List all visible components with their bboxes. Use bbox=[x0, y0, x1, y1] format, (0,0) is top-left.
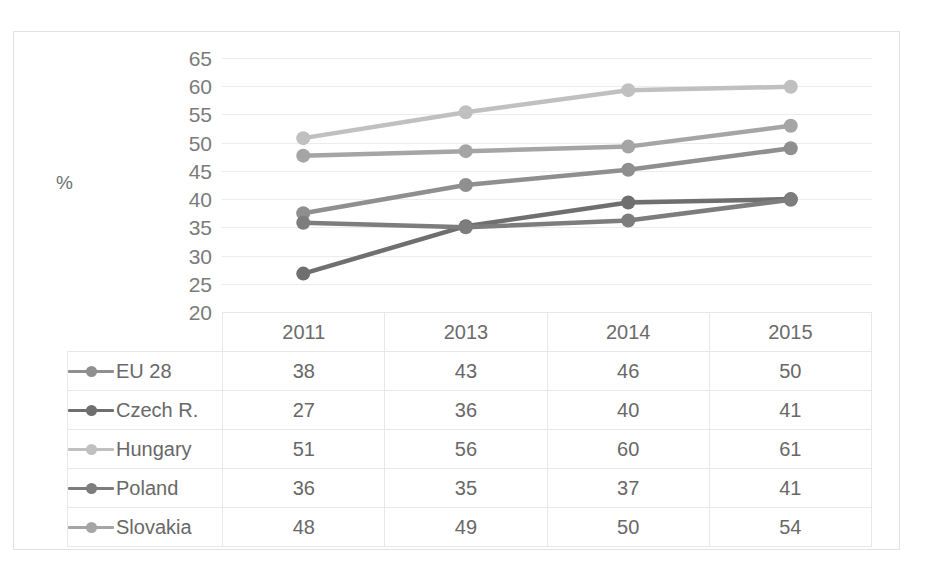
y-axis-tick-label: 50 bbox=[189, 133, 212, 154]
y-axis-title: % bbox=[56, 172, 73, 194]
gridline bbox=[222, 284, 872, 285]
table-cell-eu-28-2013: 43 bbox=[385, 352, 547, 391]
y-axis-tick-label: 35 bbox=[189, 217, 212, 238]
y-axis-tick-labels: 65605550454035302520 bbox=[150, 46, 212, 324]
legend-marker-icon bbox=[68, 364, 114, 378]
table-cell-eu-28-2014: 46 bbox=[547, 352, 709, 391]
table-body: EU 2838434650Czech R.27364041Hungary5156… bbox=[68, 352, 872, 547]
table-cell-poland-2014: 37 bbox=[547, 469, 709, 508]
y-axis-tick-label: 40 bbox=[189, 189, 212, 210]
y-axis-tick-label: 45 bbox=[189, 161, 212, 182]
chart-figure: % 65605550454035302520 2011201320142015 … bbox=[0, 0, 929, 578]
table-row: Slovakia48495054 bbox=[68, 508, 872, 547]
table-column-header-2015: 2015 bbox=[709, 313, 871, 352]
gridline bbox=[222, 114, 872, 115]
legend-label-slovakia: Slovakia bbox=[114, 516, 192, 539]
table-corner-cell bbox=[68, 313, 223, 352]
table-cell-slovakia-2013: 49 bbox=[385, 508, 547, 547]
table-row: Hungary51566061 bbox=[68, 430, 872, 469]
y-axis-tick-label: 30 bbox=[189, 246, 212, 267]
table-cell-poland-2015: 41 bbox=[709, 469, 871, 508]
data-table: 2011201320142015 EU 2838434650Czech R.27… bbox=[67, 312, 872, 547]
legend-label-czech-r: Czech R. bbox=[114, 399, 198, 422]
legend-cell-eu-28: EU 28 bbox=[68, 352, 223, 391]
gridline bbox=[222, 143, 872, 144]
table-cell-czech-r-2015: 41 bbox=[709, 391, 871, 430]
gridline bbox=[222, 58, 872, 59]
table-column-header-2013: 2013 bbox=[385, 313, 547, 352]
table-cell-poland-2013: 35 bbox=[385, 469, 547, 508]
table-cell-slovakia-2011: 48 bbox=[223, 508, 385, 547]
legend-marker-icon bbox=[68, 403, 114, 417]
table-row: EU 2838434650 bbox=[68, 352, 872, 391]
table-cell-hungary-2014: 60 bbox=[547, 430, 709, 469]
legend-marker-icon bbox=[68, 520, 114, 534]
plot-area bbox=[222, 58, 872, 312]
legend-label-eu-28: EU 28 bbox=[114, 360, 172, 383]
table-header-row: 2011201320142015 bbox=[68, 313, 872, 352]
y-axis-tick-label: 25 bbox=[189, 274, 212, 295]
table-cell-czech-r-2011: 27 bbox=[223, 391, 385, 430]
table-cell-hungary-2011: 51 bbox=[223, 430, 385, 469]
gridline bbox=[222, 86, 872, 87]
table-cell-slovakia-2014: 50 bbox=[547, 508, 709, 547]
gridline bbox=[222, 171, 872, 172]
table-cell-czech-r-2013: 36 bbox=[385, 391, 547, 430]
legend-cell-czech-r: Czech R. bbox=[68, 391, 223, 430]
legend-cell-slovakia: Slovakia bbox=[68, 508, 223, 547]
table-column-header-2014: 2014 bbox=[547, 313, 709, 352]
table-row: Poland36353741 bbox=[68, 469, 872, 508]
legend-cell-hungary: Hungary bbox=[68, 430, 223, 469]
y-axis-tick-label: 65 bbox=[189, 48, 212, 69]
table-cell-slovakia-2015: 54 bbox=[709, 508, 871, 547]
y-axis-tick-label: 60 bbox=[189, 76, 212, 97]
table-row: Czech R.27364041 bbox=[68, 391, 872, 430]
table-cell-czech-r-2014: 40 bbox=[547, 391, 709, 430]
gridline bbox=[222, 256, 872, 257]
legend-cell-poland: Poland bbox=[68, 469, 223, 508]
table-cell-hungary-2013: 56 bbox=[385, 430, 547, 469]
table-cell-eu-28-2011: 38 bbox=[223, 352, 385, 391]
legend-marker-icon bbox=[68, 481, 114, 495]
table-cell-eu-28-2015: 50 bbox=[709, 352, 871, 391]
y-axis-tick-label: 55 bbox=[189, 104, 212, 125]
table-cell-hungary-2015: 61 bbox=[709, 430, 871, 469]
gridline bbox=[222, 199, 872, 200]
legend-label-poland: Poland bbox=[114, 477, 178, 500]
table-column-header-2011: 2011 bbox=[223, 313, 385, 352]
gridline bbox=[222, 227, 872, 228]
legend-label-hungary: Hungary bbox=[114, 438, 192, 461]
legend-marker-icon bbox=[68, 442, 114, 456]
table-cell-poland-2011: 36 bbox=[223, 469, 385, 508]
